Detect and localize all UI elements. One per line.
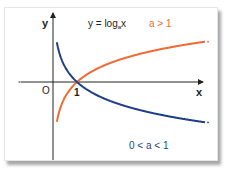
curve-a-lt-1 — [57, 43, 205, 122]
curve-end-dots — [207, 41, 209, 43]
title-tail: x — [121, 18, 126, 29]
chart-title: y = logax — [88, 18, 126, 30]
legend-a-lt-1: 0 < a < 1 — [129, 140, 169, 151]
y-axis-label: y — [42, 17, 49, 29]
log-chart: y x O 1 y = logax a > 1 0 < a < 1 — [0, 0, 227, 171]
legend-a-gt-1: a > 1 — [149, 18, 172, 29]
curve-end-dots — [207, 121, 209, 123]
curve-end-dots — [56, 42, 58, 44]
x-axis-label: x — [196, 86, 203, 98]
intersection-label: 1 — [74, 87, 80, 98]
origin-label: O — [42, 85, 50, 96]
curve-a-gt-1 — [57, 42, 205, 121]
title-main: y = log — [88, 18, 118, 29]
curve-end-dots — [56, 120, 58, 122]
